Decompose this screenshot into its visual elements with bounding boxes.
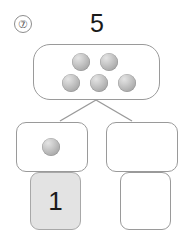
total-value-label: 5 bbox=[80, 8, 114, 38]
connector-line-left bbox=[60, 100, 96, 121]
problem-number-label: ⑦ bbox=[14, 15, 32, 33]
whole-group-counter bbox=[62, 74, 80, 92]
whole-group-counter bbox=[72, 53, 90, 71]
answer-box-right[interactable] bbox=[120, 172, 171, 230]
part-box-right bbox=[106, 122, 178, 172]
whole-group-counter bbox=[100, 53, 118, 71]
connector-line-right bbox=[96, 100, 132, 121]
number-bond-worksheet: ⑦ 5 1 bbox=[0, 0, 194, 237]
whole-group-counter bbox=[118, 74, 136, 92]
answer-box-left[interactable]: 1 bbox=[30, 172, 81, 230]
whole-group-counter bbox=[90, 74, 108, 92]
answer-left-value: 1 bbox=[31, 173, 80, 229]
answer-right-value bbox=[121, 173, 170, 229]
part-left-counter bbox=[42, 138, 60, 156]
